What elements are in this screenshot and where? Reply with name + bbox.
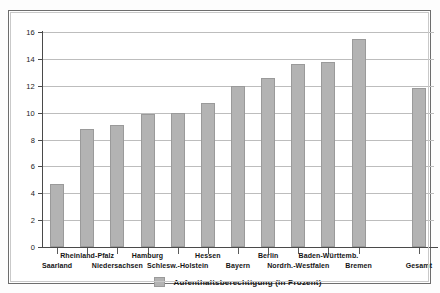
plot-area	[42, 32, 434, 247]
x-axis-category-label: Berlin	[258, 252, 278, 259]
bar	[141, 114, 155, 247]
x-axis-tick	[419, 248, 420, 254]
x-axis-category-label: Bremen	[345, 262, 372, 269]
x-axis-tick	[117, 248, 118, 254]
x-axis-category-label: Hamburg	[132, 252, 163, 259]
x-axis-category-label: Rheinland-Pfalz	[60, 252, 114, 259]
bar	[171, 113, 185, 247]
bar	[352, 39, 366, 247]
bar	[412, 88, 426, 247]
legend-swatch-icon	[154, 277, 165, 287]
x-axis-category-label: Bayern	[226, 262, 250, 269]
chart-container: 0246810121416 SaarlandRheinland-PfalzNie…	[0, 0, 440, 293]
y-axis-tick-label: 16	[9, 28, 35, 37]
x-axis-category-label: Saarland	[42, 262, 72, 269]
y-axis-tick-label: 12	[9, 81, 35, 90]
x-axis-category-label: Nordrh.-Westfalen	[267, 262, 329, 269]
x-axis-category-label: Hessen	[195, 252, 221, 259]
x-axis-tick	[57, 248, 58, 254]
bar	[231, 86, 245, 247]
bar	[261, 78, 275, 247]
x-axis-category-label: Gesamt	[406, 262, 432, 269]
chart-frame: 0246810121416 SaarlandRheinland-PfalzNie…	[8, 10, 431, 284]
bar	[50, 184, 64, 247]
x-axis-tick	[238, 248, 239, 254]
x-axis-category-label: Niedersachsen	[92, 262, 143, 269]
y-axis-tick-label: 4	[9, 189, 35, 198]
x-axis-tick	[359, 248, 360, 254]
x-axis-line	[42, 247, 438, 248]
y-axis-tick	[38, 247, 43, 248]
bar	[291, 64, 305, 247]
legend-label: Aufenthaltsberechtigung (in Prozent)	[173, 278, 321, 287]
bar	[201, 103, 215, 247]
y-axis-tick-label: 10	[9, 108, 35, 117]
x-axis-tick	[178, 248, 179, 254]
y-axis-tick-label: 6	[9, 162, 35, 171]
y-axis-tick-label: 2	[9, 216, 35, 225]
y-axis-tick-label: 0	[9, 243, 35, 252]
y-axis-tick-label: 8	[9, 135, 35, 144]
bar	[110, 125, 124, 247]
bar	[321, 62, 335, 247]
x-axis-category-label: Baden-Württemb.	[299, 252, 359, 259]
chart-legend: Aufenthaltsberechtigung (in Prozent)	[42, 277, 434, 287]
bar	[80, 129, 94, 247]
x-axis-category-label: Schlesw.-Holstein	[147, 262, 208, 269]
y-axis-tick-label: 14	[9, 54, 35, 63]
